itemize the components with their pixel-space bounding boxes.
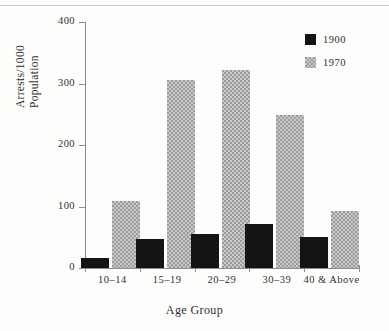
bar-1900-10–14 bbox=[81, 258, 109, 268]
legend-item-1970: 1970 bbox=[305, 57, 346, 68]
legend-swatch-1900 bbox=[305, 34, 316, 45]
legend: 1900 1970 bbox=[305, 34, 346, 80]
y-axis-title-line-1: Arrests/1000 bbox=[14, 0, 28, 108]
y-tick-label-200: 200 bbox=[0, 138, 75, 149]
y-tick-label-wrap-100: 100 bbox=[0, 200, 75, 211]
x-axis-title: Age Group bbox=[0, 303, 389, 318]
y-axis-title-line-2: Population bbox=[28, 0, 42, 108]
page-rule bbox=[0, 5, 389, 6]
x-tick-end bbox=[359, 265, 360, 272]
y-tick-label-100: 100 bbox=[0, 200, 75, 211]
bar-1900-15–19 bbox=[136, 239, 164, 268]
x-category-label-4: 40 & Above bbox=[294, 274, 369, 285]
y-tick-label-wrap-0: 0 bbox=[0, 261, 75, 272]
legend-item-1900: 1900 bbox=[305, 34, 346, 45]
bar-1970-40 & Above bbox=[331, 211, 359, 268]
legend-swatch-1970 bbox=[305, 57, 316, 68]
x-axis-line bbox=[85, 268, 359, 269]
y-tick-label-0: 0 bbox=[0, 261, 75, 272]
y-tick-label-wrap-200: 200 bbox=[0, 138, 75, 149]
legend-label-1970: 1970 bbox=[323, 57, 346, 68]
bar-1900-20–29 bbox=[191, 234, 219, 268]
bar-1900-30–39 bbox=[245, 224, 273, 268]
chart-figure: 0100200300400 10–1415–1920–2930–3940 & A… bbox=[0, 0, 389, 331]
y-axis-title: Arrests/1000 Population bbox=[14, 0, 41, 108]
legend-label-1900: 1900 bbox=[323, 34, 346, 45]
bar-1900-40 & Above bbox=[300, 237, 328, 268]
